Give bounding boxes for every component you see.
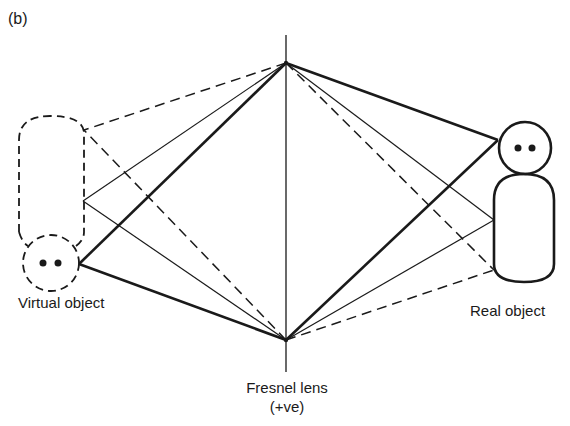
fresnel-lens-label: Fresnel lens (+ve): [226, 378, 348, 416]
diagram-canvas: [0, 0, 570, 426]
ray-real-foot-top-dashed: [286, 63, 494, 270]
virtual-object: [19, 116, 84, 291]
virtual-object-eye-right: [55, 260, 62, 267]
real-object-body: [494, 174, 554, 282]
ray-real-head-top-thick: [286, 63, 498, 140]
lens-top-point: [284, 61, 288, 65]
real-object-eye-right: [529, 145, 536, 152]
real-rays: [286, 63, 498, 340]
ray-virtual-mid-top-thin: [83, 63, 286, 201]
lens-name: Fresnel lens: [226, 378, 348, 397]
panel-label: (b): [8, 10, 28, 28]
real-object-head: [499, 122, 551, 174]
ray-virtual-top-top-dashed: [84, 63, 286, 130]
real-object-label: Real object: [470, 302, 545, 319]
real-object-eye-left: [515, 145, 522, 152]
ray-virtual-mid-bottom-thin: [83, 201, 286, 340]
virtual-object-head: [23, 235, 79, 291]
virtual-object-body: [19, 116, 84, 246]
virtual-rays: [79, 63, 286, 340]
virtual-object-eye-left: [40, 260, 47, 267]
ray-real-head-bottom-thick: [286, 140, 498, 340]
lens-bottom-point: [284, 338, 288, 342]
ray-virtual-head-top-thick: [79, 63, 286, 264]
virtual-object-label: Virtual object: [18, 294, 104, 311]
real-object: [494, 122, 554, 282]
ray-real-mid-top-thin: [286, 63, 494, 220]
ray-virtual-head-bottom-thick: [79, 264, 286, 340]
lens-sign: (+ve): [226, 397, 348, 416]
